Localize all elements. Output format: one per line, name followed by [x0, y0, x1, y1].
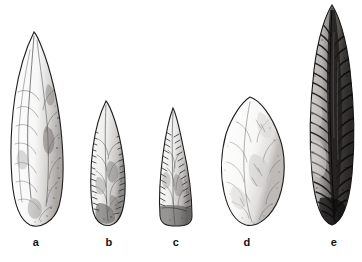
artifact-d-ovate-biface	[216, 94, 290, 228]
artifact-a-body	[11, 32, 63, 226]
artifact-a-lanceolate-biface	[6, 30, 68, 228]
caption-label-b: b	[99, 237, 119, 248]
artifact-b-serrated-leaf-point	[84, 99, 132, 228]
artifact-c-body	[160, 108, 192, 226]
artifact-e-body	[310, 5, 354, 225]
caption-label-d: d	[237, 237, 257, 248]
artifact-e-parallel-flaked-blade	[304, 2, 360, 228]
caption-label-c: c	[166, 237, 186, 248]
caption-label-a: a	[26, 237, 46, 248]
artifact-d-body	[222, 97, 285, 225]
artifact-c-triangular-point	[150, 106, 202, 228]
figure-plate: a b c d e	[0, 0, 362, 262]
caption-label-e: e	[324, 237, 344, 248]
artifact-b-body	[90, 101, 125, 225]
